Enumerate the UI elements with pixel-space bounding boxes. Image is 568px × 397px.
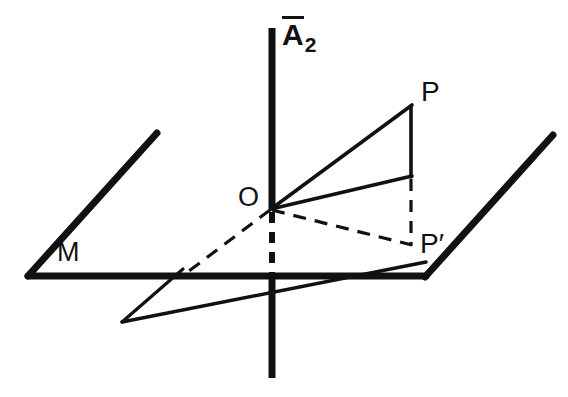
- axis-label-subscript: 2: [305, 33, 317, 56]
- point-p-label: P: [421, 78, 440, 106]
- plane-left-diagonal-edge: [28, 133, 157, 276]
- plane-m-label: M: [57, 239, 80, 266]
- dashed-o-to-p-prime: [272, 210, 412, 245]
- axis-label-letter: A: [282, 16, 304, 50]
- origin-label: O: [238, 184, 259, 211]
- dashed-construction-lines: [185, 179, 412, 274]
- figure-canvas: [0, 0, 568, 397]
- geometry-figure: A2 O P P′ M: [0, 0, 568, 397]
- point-p-prime-label: P′: [420, 230, 444, 258]
- axis-label: A2: [282, 16, 316, 55]
- dashed-o-to-plane-left: [185, 210, 270, 274]
- plane-right-diagonal-edge: [425, 135, 553, 277]
- triangle-o-p: [271, 105, 412, 209]
